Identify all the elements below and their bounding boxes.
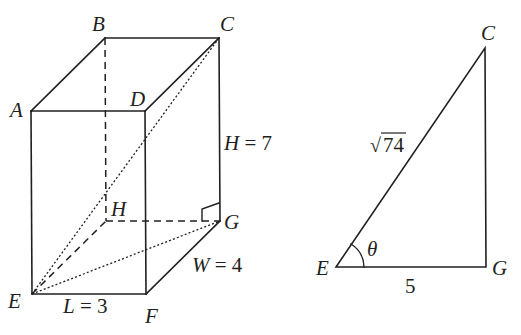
edge-AE: [31, 111, 32, 294]
label-G: G: [224, 210, 239, 234]
label-C: C: [220, 12, 235, 36]
label-F: F: [144, 304, 158, 328]
sqrt-symbol: √: [370, 134, 381, 156]
dimension-height: H = 7: [223, 131, 272, 155]
label-E: E: [7, 289, 21, 313]
diagonal-EC: [32, 38, 219, 294]
label-A: A: [8, 98, 23, 122]
triangle-label-C: C: [481, 21, 496, 45]
edge-EH: [32, 221, 106, 294]
hypotenuse-value: 74: [383, 133, 405, 157]
dimension-length: L = 3: [62, 294, 108, 318]
label-H: H: [110, 197, 128, 221]
angle-theta-label: θ: [367, 237, 377, 261]
edge-DC: [145, 38, 219, 111]
right-triangle: E G C θ √ 74 5: [315, 21, 507, 298]
triangle-ECG: [336, 48, 486, 267]
label-B: B: [92, 12, 105, 36]
rectangular-prism: A B C D E F G H H = 7 W = 4 L = 3: [7, 12, 272, 328]
diagram-canvas: A B C D E F G H H = 7 W = 4 L = 3 E G C …: [0, 0, 521, 335]
edge-AB: [31, 38, 105, 111]
triangle-label-E: E: [315, 256, 329, 280]
triangle-label-G: G: [492, 256, 507, 280]
dimension-width: W = 4: [192, 253, 243, 277]
right-angle-marker: [202, 203, 219, 221]
angle-theta-arc: [351, 244, 364, 267]
edge-BH: [105, 38, 106, 221]
base-label: 5: [405, 274, 416, 298]
hypotenuse-label: √ 74: [370, 133, 406, 157]
edge-CG: [219, 38, 220, 221]
label-D: D: [129, 87, 145, 111]
edge-DF: [145, 111, 146, 294]
